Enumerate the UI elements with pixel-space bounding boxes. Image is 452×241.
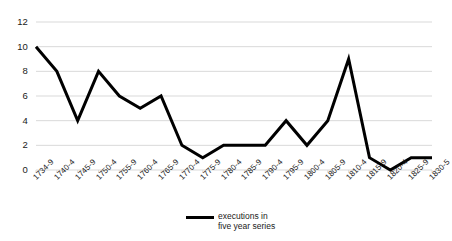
y-axis-tick-label: 6 — [4, 91, 28, 101]
y-axis-tick-label: 2 — [4, 140, 28, 150]
series-line-swatch — [186, 216, 214, 219]
y-axis-tick-label: 0 — [4, 165, 28, 175]
legend-label-line2: five year series — [218, 221, 275, 231]
y-axis-tick-label: 10 — [4, 42, 28, 52]
legend-label-line1: executions in — [218, 211, 275, 221]
legend-label: executions in five year series — [218, 211, 275, 232]
y-axis-tick-label: 12 — [4, 17, 28, 27]
gridlines-group — [36, 22, 432, 173]
series-line-0 — [36, 47, 432, 170]
y-axis-tick-label: 8 — [4, 66, 28, 76]
y-axis-tick-label: 4 — [4, 116, 28, 126]
chart-legend: executions in five year series — [186, 211, 275, 232]
series-group — [36, 47, 432, 170]
